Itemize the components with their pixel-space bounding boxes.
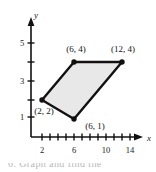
y-tick-label-3: 3 xyxy=(20,76,24,86)
math-figure: y x 2 6 10 14 xyxy=(0,0,156,172)
x-tick-label-2: 2 xyxy=(40,145,44,155)
x-axis-arrowhead xyxy=(134,134,143,141)
coordinate-plot: y x 2 6 10 14 xyxy=(0,0,156,172)
vertex-label-2-2: (2, 2) xyxy=(34,106,54,116)
x-tick-label-14: 14 xyxy=(126,145,135,155)
x-axis-label: x xyxy=(146,133,151,143)
vertex-dot-6-1 xyxy=(71,116,76,121)
vertex-dot-2-2 xyxy=(39,97,44,102)
y-tick-label-5: 5 xyxy=(20,38,24,48)
clipped-caption-text: 6. Graph and find the xyxy=(8,163,102,169)
quadrilateral-shape xyxy=(42,62,122,119)
vertex-dot-6-4 xyxy=(71,59,76,64)
vertex-label-6-1: (6, 1) xyxy=(85,121,105,131)
y-tick-label-group: 1 3 5 xyxy=(20,38,24,122)
vertex-dot-12-4 xyxy=(119,59,124,64)
x-tick-label-10: 10 xyxy=(102,145,111,155)
y-tick-label-1: 1 xyxy=(20,112,24,122)
x-tick-label-6: 6 xyxy=(72,145,76,155)
x-tick-label-group: 2 6 10 14 xyxy=(40,145,135,155)
clipped-caption-strip: 6. Graph and find the xyxy=(0,163,156,172)
vertex-label-12-4: (12, 4) xyxy=(111,44,135,54)
vertex-label-6-4: (6, 4) xyxy=(66,44,86,54)
y-axis-label: y xyxy=(33,10,38,20)
